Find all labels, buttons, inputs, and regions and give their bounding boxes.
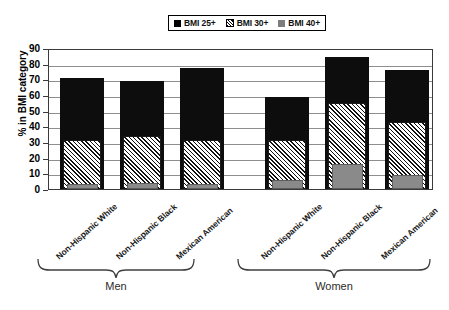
x-axis-category-label: Non-Hispanic Black [319, 202, 384, 262]
y-axis-tick-label: 90 [0, 44, 40, 54]
group-label-men: Men [76, 280, 156, 292]
chart-legend: BMI 25+ BMI 30+ BMI 40+ [168, 15, 326, 31]
brace-men [36, 258, 196, 280]
y-axis-tick-label: 80 [0, 60, 40, 70]
cropped-title-artifact [112, 1, 342, 10]
legend-label-bmi-40: BMI 40+ [288, 19, 320, 28]
y-axis-tick-label: 10 [0, 169, 40, 179]
grid-line [49, 97, 432, 98]
legend-label-bmi-30: BMI 30+ [237, 19, 269, 28]
group-label-women: Women [294, 280, 374, 292]
x-axis-category-label: Non-Hispanic White [54, 201, 119, 261]
bar-bmi-30 [123, 136, 161, 189]
grid-line [49, 144, 432, 145]
y-axis-tick-label: 0 [0, 185, 40, 195]
bar-bmi-30 [63, 140, 101, 189]
x-axis-category-label: Non-Hispanic Black [114, 202, 179, 262]
bar-bmi-40 [392, 175, 423, 189]
bar-bmi-40 [67, 184, 98, 189]
bar-bmi-40 [332, 164, 363, 189]
grid-line [49, 66, 432, 67]
y-axis-tick-label: 20 [0, 154, 40, 164]
legend-item-bmi-30: BMI 30+ [226, 19, 269, 28]
bar-bmi-30 [183, 140, 221, 189]
x-axis-category-label: Mexican American [379, 205, 440, 261]
bar-bmi-40 [187, 184, 218, 189]
y-axis-tick-label: 60 [0, 91, 40, 101]
x-axis-category-label: Mexican American [174, 205, 235, 261]
chart-container: BMI 25+ BMI 30+ BMI 40+ % in BMI categor… [0, 0, 449, 310]
x-axis-category-label: Non-Hispanic White [259, 201, 324, 261]
legend-label-bmi-25: BMI 25+ [184, 19, 216, 28]
grid-line [49, 160, 432, 161]
grid-line [49, 128, 432, 129]
grid-line [49, 81, 432, 82]
hatched-square-icon [226, 19, 234, 27]
y-axis-tick-label: 30 [0, 138, 40, 148]
legend-item-bmi-25: BMI 25+ [174, 19, 216, 28]
plot-area [48, 49, 433, 190]
bar-bmi-40 [272, 180, 303, 189]
brace-women [236, 258, 432, 280]
legend-item-bmi-40: BMI 40+ [278, 19, 320, 28]
black-square-icon [174, 20, 181, 27]
y-axis-tick-label: 70 [0, 75, 40, 85]
bar-bmi-40 [127, 183, 158, 189]
grid-line [49, 175, 432, 176]
y-axis-tick-mark [43, 190, 48, 191]
y-axis-tick-label: 50 [0, 107, 40, 117]
gray-square-icon [278, 20, 285, 27]
grid-line [49, 113, 432, 114]
y-axis-tick-label: 40 [0, 122, 40, 132]
